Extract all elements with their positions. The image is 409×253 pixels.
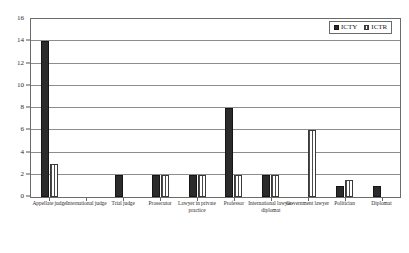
bar-ictr: [308, 130, 316, 197]
bar-icty: [152, 175, 160, 197]
y-axis-tick-label: 10: [17, 81, 24, 88]
x-axis-tick-label: Diplomat: [356, 200, 407, 207]
legend-label-ictr: ICTR: [371, 24, 387, 31]
y-axis-tick-label: 2: [21, 170, 25, 177]
x-axis: Appellate judgeInternational judgeTrial …: [31, 200, 400, 250]
bar-icty: [225, 108, 233, 197]
y-axis-tick-label: 4: [21, 148, 25, 155]
bar-icty: [189, 175, 197, 197]
bar-ictr: [161, 175, 169, 197]
legend-label-icty: ICTY: [341, 24, 357, 31]
solid-dark-square-icon: [334, 25, 339, 30]
legend-item-icty: ICTY: [334, 24, 357, 31]
bar-icty: [336, 186, 344, 197]
y-axis-tick-label: 6: [21, 126, 25, 133]
bar-chart: 0246810121416 Appellate judgeInternation…: [0, 0, 409, 253]
bar-icty: [115, 175, 123, 197]
y-axis: 0246810121416: [0, 18, 30, 198]
legend: ICTY ICTR: [329, 21, 392, 34]
y-axis-tick-label: 16: [17, 15, 24, 22]
bar-ictr: [345, 180, 353, 197]
bar-icty: [41, 41, 49, 197]
bar-ictr: [234, 175, 242, 197]
legend-item-ictr: ICTR: [364, 24, 387, 31]
bar-ictr: [50, 164, 58, 197]
bar-ictr: [198, 175, 206, 197]
y-axis-tick-label: 0: [21, 193, 25, 200]
bars-layer: [31, 19, 400, 197]
bar-icty: [262, 175, 270, 197]
y-axis-tick-label: 12: [17, 59, 24, 66]
striped-light-square-icon: [364, 25, 369, 30]
bar-icty: [373, 186, 381, 197]
y-axis-tick-label: 14: [17, 37, 24, 44]
bar-ictr: [271, 175, 279, 197]
y-axis-tick-label: 8: [21, 104, 25, 111]
